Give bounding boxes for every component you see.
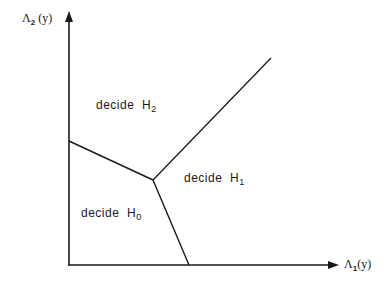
decision-region-diagram: [0, 0, 388, 288]
y-axis-suffix: (y): [38, 11, 52, 25]
region-h1-subscript: 1: [239, 177, 244, 187]
x-axis-symbol: Λ: [344, 257, 353, 271]
region-h2-subscript: 2: [151, 104, 156, 114]
region-label-h1: decide H1: [184, 171, 244, 187]
boundary-h0-h1: [153, 180, 189, 265]
region-h2-hyp: H: [142, 98, 151, 112]
y-axis-label: Λ2 (y): [22, 11, 52, 27]
region-label-h0: decide H0: [81, 206, 141, 222]
x-axis-arrowhead-icon: [328, 261, 339, 269]
region-h0-subscript: 0: [136, 212, 141, 222]
region-h1-prefix: decide: [184, 171, 222, 185]
y-axis-symbol: Λ: [22, 11, 31, 25]
region-h1-hyp: H: [230, 171, 239, 185]
boundary-h1-h2: [153, 58, 271, 180]
y-axis-arrowhead-icon: [65, 11, 73, 22]
region-h2-prefix: decide: [96, 98, 134, 112]
region-label-h2: decide H2: [96, 98, 156, 114]
region-h0-prefix: decide: [81, 206, 119, 220]
x-axis-label: Λ1(y): [344, 257, 371, 273]
y-axis-subscript: 2: [31, 18, 35, 27]
region-h0-hyp: H: [127, 206, 136, 220]
boundary-h0-h2: [69, 141, 153, 180]
x-axis-suffix: (y): [357, 257, 371, 271]
